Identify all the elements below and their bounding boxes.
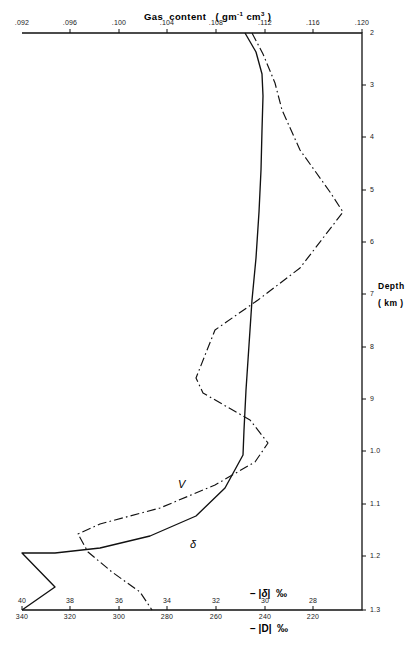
- bottom-primary-tick-label: 36: [115, 597, 123, 604]
- top-axis-tick-label: .112: [258, 19, 272, 26]
- gas-content-depth-profile-chart: [0, 0, 420, 646]
- top-axis-tick-label: .120: [355, 19, 369, 26]
- bottom-primary-tick-label: 30: [261, 597, 269, 604]
- bottom-secondary-tick-label: 320: [64, 613, 76, 620]
- bottom-secondary-tick-label: 300: [113, 613, 125, 620]
- depth-axis-tick-label: 1.3: [370, 606, 380, 613]
- curve-label-delta: δ: [190, 538, 196, 550]
- bottom-secondary-tick-label: 280: [161, 613, 173, 620]
- bottom-primary-tick-label: 34: [163, 597, 171, 604]
- bottom-primary-tick-label: 32: [212, 597, 220, 604]
- depth-axis-title-line2: ( km ): [378, 298, 404, 308]
- bottom-primary-tick-label: 38: [66, 597, 74, 604]
- depth-axis-tick-label: 3: [370, 81, 374, 88]
- bottom-secondary-tick-label: 260: [210, 613, 222, 620]
- depth-axis-tick-label: 1.0: [370, 447, 380, 454]
- depth-axis-tick-label: 4: [370, 133, 374, 140]
- bottom-secondary-tick-label: 240: [259, 613, 271, 620]
- depth-axis-tick-label: 7: [370, 290, 374, 297]
- depth-axis-tick-label: 1.2: [370, 552, 380, 559]
- bottom-secondary-axis-title: − |D| ‰: [250, 622, 288, 634]
- top-axis-tick-label: .096: [63, 19, 77, 26]
- bottom-primary-tick-label: 28: [309, 597, 317, 604]
- bottom-primary-tick-label: 40: [18, 597, 26, 604]
- data-series: [22, 33, 343, 610]
- depth-axis-tick-label: 1.1: [370, 500, 380, 507]
- axis-ticks: [22, 29, 366, 610]
- depth-axis-tick-label: 6: [370, 238, 374, 245]
- top-axis-tick-label: .100: [112, 19, 126, 26]
- curve-label-v: V: [178, 478, 185, 490]
- depth-axis-tick-label: 2: [370, 29, 374, 36]
- top-axis-tick-label: .108: [209, 19, 223, 26]
- top-axis-tick-label: .104: [160, 19, 174, 26]
- depth-axis-tick-label: 5: [370, 186, 374, 193]
- depth-axis-tick-label: 8: [370, 343, 374, 350]
- bottom-secondary-tick-label: 220: [307, 613, 319, 620]
- series-v-line: [78, 33, 343, 610]
- depth-axis-tick-label: 9: [370, 395, 374, 402]
- top-axis-tick-label: .116: [306, 19, 320, 26]
- bottom-secondary-tick-label: 340: [16, 613, 28, 620]
- plot-frame: [22, 33, 362, 610]
- top-axis-tick-label: .092: [15, 19, 29, 26]
- depth-axis-title-line1: Depth: [378, 281, 405, 291]
